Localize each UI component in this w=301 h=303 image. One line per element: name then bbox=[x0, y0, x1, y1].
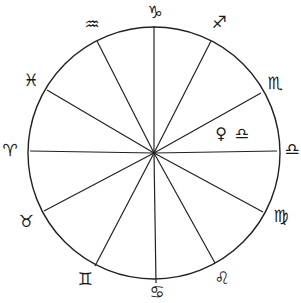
divider-line bbox=[154, 41, 211, 153]
sagittarius-icon: ♐ bbox=[211, 14, 226, 31]
aquarius-icon: ♒ bbox=[84, 16, 99, 33]
divider-line bbox=[154, 93, 261, 153]
divider-line bbox=[30, 151, 154, 153]
zodiac-wheel bbox=[0, 0, 301, 303]
leo-icon: ♌ bbox=[214, 270, 229, 287]
taurus-icon: ♉ bbox=[18, 213, 33, 230]
divider-line bbox=[95, 153, 154, 266]
venus-icon: ♀ bbox=[215, 126, 227, 142]
aries-icon: ♈ bbox=[2, 142, 17, 159]
libra-icon: ♎ bbox=[235, 126, 249, 142]
divider-line bbox=[154, 151, 277, 153]
capricorn-icon: ♑ bbox=[147, 4, 162, 21]
cancer-icon: ♋ bbox=[149, 284, 164, 301]
divider-line bbox=[44, 153, 154, 211]
virgo-icon: ♍ bbox=[273, 208, 288, 225]
gemini-icon: ♊ bbox=[77, 271, 92, 288]
scorpio-icon: ♏ bbox=[267, 75, 282, 92]
libra-icon: ♎ bbox=[284, 141, 299, 158]
divider-line bbox=[154, 153, 156, 283]
pisces-icon: ♓ bbox=[23, 72, 38, 89]
